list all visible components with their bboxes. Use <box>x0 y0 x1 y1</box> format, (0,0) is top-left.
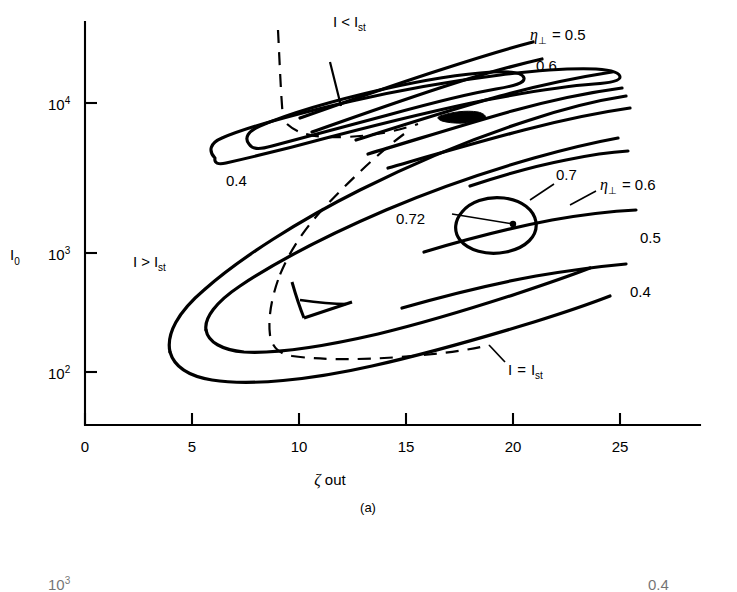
y-tick-mantissa: 10 <box>48 365 65 382</box>
leader-contour-0-7 <box>530 184 554 200</box>
y-tick-exponent: 2 <box>65 364 71 375</box>
svg-text:I<Ist: I<Ist <box>333 13 366 33</box>
next-panel-contour-fragment: 0.4 <box>648 576 669 592</box>
eta-eq-lower: = 0.6 <box>622 176 656 193</box>
region-lower-lhs: I <box>133 253 137 270</box>
svg-text:0.72: 0.72 <box>396 210 425 227</box>
region-lower-rhs-sub: st <box>158 262 166 273</box>
svg-text:I>Ist: I>Ist <box>133 253 166 273</box>
y-tick-mantissa: 10 <box>48 96 65 113</box>
x-axis-ticks <box>85 413 620 425</box>
eta-symbol-upper: η <box>530 26 538 44</box>
x-tick-label-5: 5 <box>188 438 196 455</box>
figure-panel-a: 104 103 102 I0 0 5 10 15 20 25 ζout <box>0 0 737 592</box>
svg-text:103: 103 <box>48 575 71 592</box>
region-label-i-less-than-ist: I<Ist <box>333 13 366 33</box>
leader-peak-0-72 <box>452 214 513 224</box>
leader-i-equals-ist <box>489 345 505 362</box>
svg-text:ζout: ζout <box>314 471 346 489</box>
x-tick-label-0: 0 <box>81 438 89 455</box>
y-tick-label-1e2: 102 <box>48 364 71 382</box>
leader-eta-0-6-lower <box>570 191 596 205</box>
x-tick-label-10: 10 <box>291 438 308 455</box>
svg-text:102: 102 <box>48 364 71 382</box>
y-tick-mantissa: 10 <box>48 246 65 263</box>
boundary-op: = <box>517 361 526 378</box>
contour-label-0-72-peak: 0.72 <box>396 210 425 227</box>
svg-text:0.7: 0.7 <box>556 166 577 183</box>
region-upper-lhs: I <box>333 13 337 30</box>
x-axis-title: ζout <box>314 471 346 489</box>
svg-text:η⊥= 0.6: η⊥= 0.6 <box>600 176 656 196</box>
y-axis-title-sub: 0 <box>14 256 20 267</box>
contour-label-0-5-lower: 0.5 <box>640 229 661 246</box>
svg-text:103: 103 <box>48 245 71 263</box>
svg-text:I0: I0 <box>10 246 20 267</box>
svg-text:0.5: 0.5 <box>640 229 661 246</box>
contour-lower-inner-closed <box>206 268 590 352</box>
y-tick-exponent: 3 <box>65 245 71 256</box>
x-axis-title-text: out <box>325 471 347 488</box>
region-lower-op: > <box>141 253 150 270</box>
svg-text:0.4: 0.4 <box>226 172 247 189</box>
next-panel-y-tick-fragment: 103 <box>48 575 71 592</box>
y-axis-title: I0 <box>10 246 20 267</box>
figure-caption: (a) <box>360 500 376 515</box>
y-tick-label-1e4: 104 <box>48 95 71 113</box>
svg-text:0.4: 0.4 <box>648 576 669 592</box>
x-tick-label-15: 15 <box>398 438 415 455</box>
contour-label-0-4-upper-closed: 0.4 <box>226 172 247 189</box>
svg-text:0.6: 0.6 <box>536 57 557 74</box>
x-tick-label-20: 20 <box>505 438 522 455</box>
region-upper-rhs-sub: st <box>358 22 366 33</box>
svg-text:104: 104 <box>48 95 71 113</box>
eta-eq-upper: = 0.5 <box>552 26 586 43</box>
x-tick-label-25: 25 <box>612 438 629 455</box>
boundary-rhs-sub: st <box>535 370 543 381</box>
next-panel-tick-mantissa: 10 <box>48 576 65 592</box>
region-label-i-greater-than-ist: I>Ist <box>133 253 166 273</box>
svg-text:I=Ist: I=Ist <box>508 361 543 381</box>
svg-text:0.4: 0.4 <box>630 283 651 300</box>
region-upper-op: < <box>341 13 350 30</box>
y-axis-ticks <box>85 103 97 372</box>
contour-lower-closed-0-4 <box>170 296 610 382</box>
next-panel-tick-exponent: 3 <box>65 575 71 586</box>
contour-label-0-4-lower: 0.4 <box>630 283 651 300</box>
boundary-lhs: I <box>508 361 512 378</box>
contour-converging-marks <box>292 282 352 318</box>
contour-label-eta-lower-head: η⊥= 0.6 <box>600 176 656 196</box>
eta-sub-lower: ⊥ <box>608 185 617 196</box>
contour-plot-svg: 104 103 102 I0 0 5 10 15 20 25 ζout <box>0 0 737 592</box>
y-tick-label-1e3: 103 <box>48 245 71 263</box>
eta-sub-upper: ⊥ <box>538 35 547 46</box>
svg-text:(a): (a) <box>360 500 376 515</box>
contour-label-0-6-upper: 0.6 <box>536 57 557 74</box>
contour-label-0-7-island: 0.7 <box>556 166 577 183</box>
svg-text:η⊥= 0.5: η⊥= 0.5 <box>530 26 586 46</box>
contour-label-eta-upper-head: η⊥= 0.5 <box>530 26 586 46</box>
eta-symbol-lower: η <box>600 176 608 194</box>
x-axis-title-symbol: ζ <box>314 471 322 489</box>
x-tick-labels: 0 5 10 15 20 25 <box>81 438 629 455</box>
y-tick-exponent: 4 <box>65 95 71 106</box>
boundary-label-i-equals-ist: I=Ist <box>508 361 543 381</box>
